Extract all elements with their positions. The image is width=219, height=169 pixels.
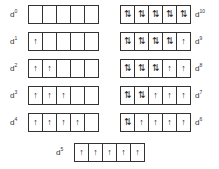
orbital-row-d2: ↑↑ bbox=[28, 59, 99, 78]
paired-electron-box: ⇅ bbox=[162, 32, 177, 51]
empty-orbital-box bbox=[70, 86, 85, 105]
single-electron-box: ↑ bbox=[70, 113, 85, 132]
empty-orbital-box bbox=[84, 86, 99, 105]
single-electron-box: ↑ bbox=[28, 32, 43, 51]
empty-orbital-box bbox=[84, 59, 99, 78]
paired-electron-box: ⇅ bbox=[134, 86, 149, 105]
empty-orbital-box bbox=[84, 5, 99, 24]
empty-orbital-box bbox=[28, 5, 43, 24]
empty-orbital-box bbox=[70, 59, 85, 78]
paired-electron-box: ⇅ bbox=[120, 59, 135, 78]
config-label-d5: d5 bbox=[56, 146, 63, 157]
paired-electron-box: ⇅ bbox=[162, 5, 177, 24]
paired-electron-box: ⇅ bbox=[148, 32, 163, 51]
orbital-row-d6: ⇅↑↑↑↑ bbox=[120, 113, 191, 132]
paired-electron-box: ⇅ bbox=[120, 32, 135, 51]
paired-electron-box: ⇅ bbox=[134, 59, 149, 78]
single-electron-box: ↑ bbox=[56, 86, 71, 105]
paired-electron-box: ⇅ bbox=[120, 5, 135, 24]
single-electron-box: ↑ bbox=[176, 59, 191, 78]
empty-orbital-box bbox=[70, 32, 85, 51]
single-electron-box: ↑ bbox=[148, 86, 163, 105]
paired-electron-box: ⇅ bbox=[148, 5, 163, 24]
empty-orbital-box bbox=[84, 113, 99, 132]
single-electron-box: ↑ bbox=[42, 113, 57, 132]
single-electron-box: ↑ bbox=[28, 59, 43, 78]
orbital-row-d5: ↑↑↑↑↑ bbox=[74, 143, 145, 162]
config-label-d10: d10 bbox=[195, 8, 205, 19]
single-electron-box: ↑ bbox=[162, 113, 177, 132]
config-label-d6: d6 bbox=[195, 116, 202, 127]
single-electron-box: ↑ bbox=[102, 143, 117, 162]
single-electron-box: ↑ bbox=[130, 143, 145, 162]
orbital-row-d8: ⇅⇅⇅↑↑ bbox=[120, 59, 191, 78]
paired-electron-box: ⇅ bbox=[120, 86, 135, 105]
single-electron-box: ↑ bbox=[176, 86, 191, 105]
orbital-row-d4: ↑↑↑↑ bbox=[28, 113, 99, 132]
empty-orbital-box bbox=[56, 5, 71, 24]
config-label-d8: d8 bbox=[195, 62, 202, 73]
single-electron-box: ↑ bbox=[28, 86, 43, 105]
empty-orbital-box bbox=[56, 32, 71, 51]
orbital-row-d10: ⇅⇅⇅⇅⇅ bbox=[120, 5, 191, 24]
config-label-d1: d1 bbox=[10, 35, 17, 46]
empty-orbital-box bbox=[70, 5, 85, 24]
empty-orbital-box bbox=[42, 32, 57, 51]
config-label-d4: d4 bbox=[10, 116, 17, 127]
paired-electron-box: ⇅ bbox=[120, 113, 135, 132]
config-label-d7: d7 bbox=[195, 89, 202, 100]
empty-orbital-box bbox=[56, 59, 71, 78]
single-electron-box: ↑ bbox=[148, 113, 163, 132]
paired-electron-box: ⇅ bbox=[176, 5, 191, 24]
orbital-row-d7: ⇅⇅↑↑↑ bbox=[120, 86, 191, 105]
single-electron-box: ↑ bbox=[56, 113, 71, 132]
single-electron-box: ↑ bbox=[134, 113, 149, 132]
config-label-d9: d9 bbox=[195, 35, 202, 46]
single-electron-box: ↑ bbox=[162, 86, 177, 105]
orbital-row-d3: ↑↑↑ bbox=[28, 86, 99, 105]
paired-electron-box: ⇅ bbox=[134, 5, 149, 24]
single-electron-box: ↑ bbox=[74, 143, 89, 162]
single-electron-box: ↑ bbox=[176, 32, 191, 51]
config-label-d2: d2 bbox=[10, 62, 17, 73]
paired-electron-box: ⇅ bbox=[134, 32, 149, 51]
single-electron-box: ↑ bbox=[116, 143, 131, 162]
orbital-row-d0 bbox=[28, 5, 99, 24]
single-electron-box: ↑ bbox=[42, 59, 57, 78]
orbital-row-d1: ↑ bbox=[28, 32, 99, 51]
single-electron-box: ↑ bbox=[88, 143, 103, 162]
config-label-d3: d3 bbox=[10, 89, 17, 100]
empty-orbital-box bbox=[84, 32, 99, 51]
config-label-d0: d0 bbox=[10, 8, 17, 19]
orbital-row-d9: ⇅⇅⇅⇅↑ bbox=[120, 32, 191, 51]
single-electron-box: ↑ bbox=[176, 113, 191, 132]
paired-electron-box: ⇅ bbox=[148, 59, 163, 78]
empty-orbital-box bbox=[42, 5, 57, 24]
single-electron-box: ↑ bbox=[28, 113, 43, 132]
single-electron-box: ↑ bbox=[162, 59, 177, 78]
single-electron-box: ↑ bbox=[42, 86, 57, 105]
